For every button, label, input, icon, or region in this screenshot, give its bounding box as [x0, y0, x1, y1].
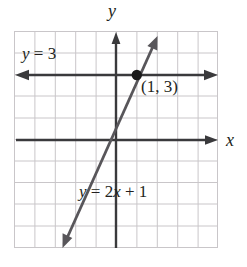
point-x-value: 1: [147, 77, 156, 96]
equation-rhs-value: 3: [48, 44, 57, 63]
equation-plus-sign: +: [121, 182, 139, 201]
equation-equals-sign: =: [87, 182, 105, 201]
equation-lhs-variable: y: [22, 44, 30, 63]
coordinate-plane-svg: [0, 0, 247, 267]
equation-constant: 1: [139, 182, 148, 201]
equation-equals-sign: =: [30, 44, 48, 63]
point-y-value: 3: [164, 77, 173, 96]
x-axis-label: x: [226, 131, 234, 149]
equation-variable-x: x: [113, 182, 121, 201]
intersection-point-label: (1, 3): [141, 78, 178, 95]
equation-lhs-variable: y: [79, 182, 87, 201]
paren-close: ): [172, 77, 178, 96]
point-comma: ,: [155, 77, 164, 96]
y-axis-label: y: [108, 2, 116, 20]
graph-figure: y x y = 3 y = 2x + 1 (1, 3): [0, 0, 247, 267]
horizontal-line-equation-label: y = 3: [22, 45, 56, 62]
sloped-line-equation-label: y = 2x + 1: [79, 183, 147, 200]
equation-coefficient: 2: [105, 182, 114, 201]
